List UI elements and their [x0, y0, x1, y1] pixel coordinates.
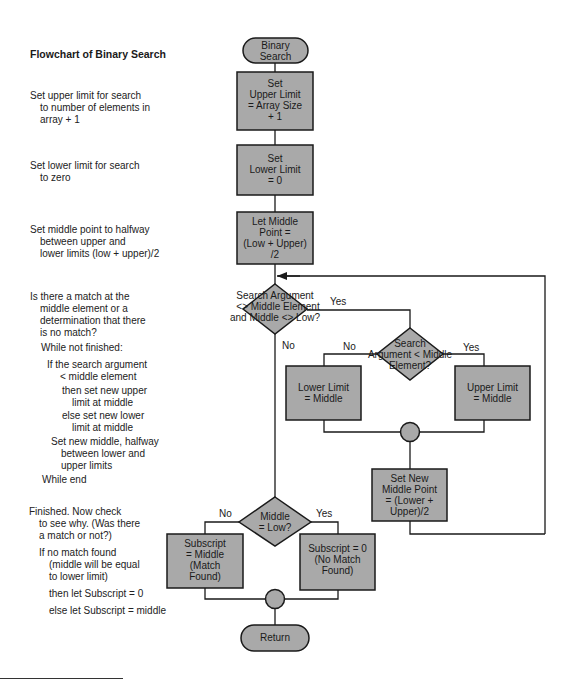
connector-merge-left — [324, 420, 401, 432]
subscript-zero-label: Subscript = 0 (No Match Found) — [300, 543, 375, 576]
connector — [205, 588, 266, 599]
connector — [284, 590, 338, 599]
connector-low-yes — [311, 522, 338, 534]
edge-label-low-yes: Yes — [316, 508, 332, 519]
upper-eq-middle-label: Upper Limit = Middle — [455, 382, 530, 404]
less-decision-label: Search Argument < Middle Element? — [360, 338, 460, 371]
edge-label-match-no: No — [282, 340, 295, 351]
edge-label-low-no: No — [219, 508, 232, 519]
match-decision-label: Search Argument <> Middle Element and Mi… — [225, 290, 325, 323]
let-middle-label: Let Middle Point = (Low + Upper) /2 — [237, 216, 313, 260]
low-decision-label: Middle = Low? — [245, 511, 305, 533]
footnote-rule — [0, 678, 123, 679]
set-upper-label: Set Upper Limit = Array Size + 1 — [237, 78, 313, 122]
edge-label-less-yes: Yes — [463, 342, 479, 353]
edge-label-less-no: No — [343, 341, 356, 352]
edge-label-match-yes: Yes — [330, 296, 346, 307]
connector-merge-right — [419, 420, 484, 432]
connector — [410, 521, 545, 534]
start-label: Binary Search — [243, 40, 308, 62]
merge-connector — [401, 423, 420, 442]
set-new-middle-label: Set New Middle Point = (Lower + Upper)/2 — [372, 473, 447, 517]
end-merge-connector — [266, 590, 285, 609]
set-lower-label: Set Lower Limit = 0 — [237, 153, 313, 186]
return-label: Return — [241, 632, 309, 643]
connector-low-no — [205, 522, 239, 534]
subscript-middle-label: Subscript = Middle (Match Found) — [167, 538, 243, 582]
lower-eq-middle-label: Lower Limit = Middle — [286, 382, 361, 404]
